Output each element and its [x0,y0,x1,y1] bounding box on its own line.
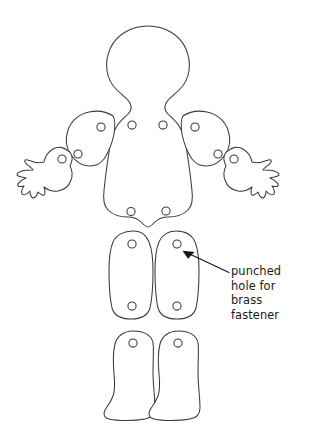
hole-torso-left-hip [127,207,135,215]
hole-left-upper-arm-shoulder [97,123,105,131]
hole-right-thigh-knee [173,302,181,310]
piece-right-thigh [155,231,199,319]
hole-torso-right-hip [162,207,170,215]
hole-left-forearm-elbow [58,155,66,163]
callout-line-1: punched [231,264,309,279]
hole-torso-right-shoulder [159,121,167,129]
piece-left-forearm-hand [17,147,72,198]
hole-left-upper-arm-elbow [74,150,82,158]
piece-head-and-torso [104,26,193,227]
hole-right-forearm-elbow [230,155,238,163]
head-and-torso-outline [104,26,193,227]
hole-torso-left-shoulder [128,121,136,129]
piece-left-thigh [109,231,153,319]
hole-left-thigh-knee [128,302,136,310]
hole-right-lower-leg-knee [174,339,182,347]
paper-doll-pattern-diagram [0,0,310,445]
callout-line-2: hole for [231,279,309,294]
hole-right-upper-arm-shoulder [191,123,199,131]
hole-right-upper-arm-elbow [214,150,222,158]
callout-label: punched hole for brass fastener [231,264,309,322]
callout-line-4: fastener [231,308,309,323]
piece-right-lower-leg [149,331,200,421]
piece-right-forearm-hand [224,147,279,198]
callout-line-3: brass [231,293,309,308]
hole-left-thigh-hip [128,240,136,248]
piece-left-lower-leg [104,331,155,421]
hole-left-lower-leg-knee [129,339,137,347]
hole-right-thigh-hip [173,240,181,248]
